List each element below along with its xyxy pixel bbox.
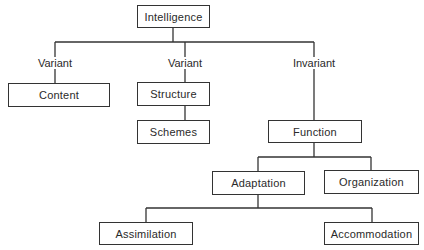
intelligence-tree-diagram: Intelligence Variant Variant Invariant C… — [0, 0, 424, 250]
node-assimilation-label: Assimilation — [115, 228, 176, 240]
node-content: Content — [8, 83, 110, 107]
node-intelligence-label: Intelligence — [144, 11, 202, 23]
node-organization-label: Organization — [339, 176, 404, 188]
node-function: Function — [268, 120, 362, 143]
node-accommodation-label: Accommodation — [331, 228, 412, 240]
node-structure-label: Structure — [150, 88, 196, 100]
node-schemes-label: Schemes — [150, 126, 197, 138]
edge-label-function-invariant: Invariant — [292, 57, 336, 69]
node-structure: Structure — [137, 82, 210, 106]
edge-label-structure-variant: Variant — [167, 57, 203, 69]
node-assimilation: Assimilation — [99, 222, 193, 245]
node-content-label: Content — [39, 89, 79, 101]
node-schemes: Schemes — [137, 120, 210, 144]
node-intelligence: Intelligence — [137, 5, 210, 28]
node-adaptation: Adaptation — [212, 171, 305, 195]
node-adaptation-label: Adaptation — [231, 177, 286, 189]
node-organization: Organization — [324, 170, 419, 194]
node-accommodation: Accommodation — [324, 222, 419, 245]
edge-label-content-variant: Variant — [37, 57, 73, 69]
node-function-label: Function — [293, 126, 337, 138]
